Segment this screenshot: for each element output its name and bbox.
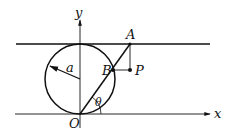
y-axis-label: y <box>74 5 83 20</box>
angle-label: θ <box>95 96 102 109</box>
x-axis-label: x <box>214 106 222 121</box>
witch-of-agnesi-diagram: y x O A B P a θ <box>0 0 231 133</box>
radius-label: a <box>66 60 74 75</box>
radius-arrow <box>50 66 80 79</box>
point-b-dot <box>111 68 115 72</box>
point-a-dot <box>128 42 131 45</box>
point-b-label: B <box>101 63 112 78</box>
point-p-dot <box>128 68 132 72</box>
point-a-label: A <box>125 27 135 42</box>
origin-label: O <box>69 116 80 131</box>
point-p-label: P <box>134 63 144 78</box>
